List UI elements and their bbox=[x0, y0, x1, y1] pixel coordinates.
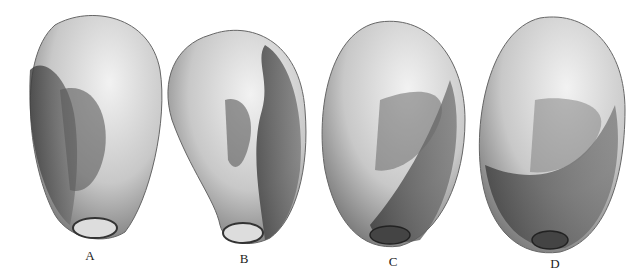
specimen-a bbox=[29, 15, 162, 238]
specimen-b bbox=[168, 30, 306, 243]
panel-label-c: C bbox=[389, 254, 398, 270]
panel-label-b: B bbox=[240, 251, 249, 267]
specimen-c bbox=[322, 21, 465, 246]
illustration bbox=[0, 0, 641, 276]
panel-label-a: A bbox=[85, 248, 94, 264]
specimen-d bbox=[479, 17, 625, 253]
panel-label-d: D bbox=[550, 256, 559, 272]
